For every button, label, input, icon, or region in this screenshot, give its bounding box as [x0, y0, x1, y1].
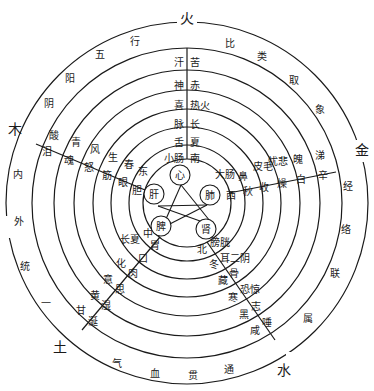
outer-word: 一: [41, 298, 51, 309]
earth-lower: 湿: [101, 300, 111, 311]
wood-lower: 怒: [84, 161, 94, 173]
organ-spleen: 脾: [156, 220, 166, 232]
water-upper: 咸: [250, 325, 260, 336]
metal-upper: 忧悲: [268, 155, 288, 167]
earth-upper: 长夏: [120, 234, 140, 245]
metal-upper: 涕: [315, 149, 325, 161]
metal-upper: 魄: [293, 153, 303, 165]
earth-lower: 思: [115, 284, 125, 295]
outer-word: 象: [315, 104, 325, 115]
five-elements-diagram: 心 肝 肺 脾 肾 火 木 金 土 水 阴 阳 五 行 比 类 取 象 内: [0, 0, 374, 391]
water-upper: 寒: [228, 291, 238, 303]
organ-heart: 心: [175, 170, 185, 181]
wood-lower: 筋: [102, 169, 112, 181]
wood-lower: 眼: [118, 177, 128, 188]
earth-upper: 中: [143, 227, 153, 239]
earth-lower: 口: [138, 253, 148, 264]
outer-word: 行: [130, 35, 140, 47]
water-lower: 耳二阴: [220, 253, 250, 264]
fire-right: 长: [190, 119, 200, 130]
outer-word: 血: [150, 367, 160, 379]
wood-upper: 青: [71, 136, 81, 148]
outer-word: 气: [112, 357, 122, 369]
fire-right: 热火: [190, 99, 210, 111]
wood-upper: 生: [108, 151, 118, 163]
element-fire: 火: [180, 10, 194, 26]
earth-upper: 意: [103, 273, 113, 285]
element-earth: 土: [53, 339, 67, 355]
water-lower: 膀胱: [210, 236, 230, 248]
fire-left: 汗: [174, 56, 184, 68]
wood-upper: 东: [138, 165, 148, 177]
metal-lower: 秋: [243, 185, 253, 197]
wood-upper: 风: [90, 144, 100, 155]
water-lower: 唾: [262, 317, 272, 328]
organ-liver: 肝: [149, 189, 159, 200]
outer-word: 类: [257, 50, 267, 62]
fire-left: 小肠: [164, 153, 184, 164]
wood-upper: 春: [124, 159, 134, 170]
earth-upper: 黄: [90, 289, 100, 301]
element-metal: 金: [355, 142, 369, 158]
fire-left: 舌: [174, 137, 184, 148]
outer-word: 经: [343, 180, 353, 192]
element-water: 水: [277, 362, 291, 378]
element-wood: 木: [8, 121, 22, 137]
wood-lower: 魂: [64, 154, 74, 166]
metal-lower: 辛: [318, 169, 328, 181]
metal-sector: 大肠 鼻 皮毛 忧悲 魄 涕 西 秋 收 燥 白 辛: [215, 149, 328, 201]
earth-lower: 涎: [88, 315, 98, 327]
organ-kidney: 肾: [201, 224, 211, 235]
metal-lower: 白: [296, 173, 306, 185]
water-lower: 恐惊: [240, 283, 260, 295]
earth-sector: 中 长夏 化 意 黄 甘 胃 口 肉 思 湿 涎: [76, 227, 160, 327]
earth-lower: 胃: [150, 240, 160, 251]
organ-lung: 肺: [205, 190, 215, 201]
metal-upper: 鼻: [238, 170, 248, 182]
outer-word: 外: [14, 216, 24, 227]
water-sector: 北 冬 藏 寒 黑 咸 膀胱 耳二阴 骨 恐惊 志 唾: [197, 236, 272, 336]
water-upper: 冬: [209, 258, 219, 270]
fire-right: 苦: [190, 56, 200, 68]
water-lower: 骨: [229, 268, 239, 279]
water-upper: 北: [197, 244, 207, 255]
outer-word: 络: [341, 223, 351, 235]
metal-lower: 收: [259, 181, 269, 193]
earth-upper: 化: [116, 257, 126, 269]
fire-left: 喜: [174, 99, 184, 111]
outer-word: 内: [13, 168, 23, 180]
outer-word: 五: [95, 49, 105, 60]
water-upper: 藏: [218, 275, 228, 286]
fire-right: 赤: [190, 80, 200, 91]
organ-pentagram: 心 肝 肺 脾 肾: [144, 165, 220, 239]
outer-word: 统: [20, 260, 30, 272]
fire-left: 脉: [174, 118, 184, 130]
outer-word: 属: [303, 313, 313, 324]
outer-word: 比: [225, 38, 235, 49]
fire-right: 南: [190, 152, 200, 164]
fire-left: 神: [174, 79, 184, 91]
wood-upper: 酸: [49, 129, 59, 141]
outer-word: 阳: [65, 73, 75, 84]
metal-lower: 燥: [277, 178, 287, 189]
sector-dividers: [36, 48, 336, 340]
metal-upper: 大肠: [215, 168, 235, 180]
metal-lower: 西: [226, 190, 236, 201]
wood-lower: 胆: [132, 185, 142, 196]
fire-right: 夏: [190, 137, 200, 148]
diagram-canvas: 心 肝 肺 脾 肾 火 木 金 土 水 阴 阳 五 行 比 类 取 象 内: [0, 0, 374, 391]
label-masks: [4, 8, 372, 374]
outer-word: 取: [289, 75, 299, 86]
earth-upper: 甘: [76, 304, 86, 316]
water-lower: 志: [251, 300, 261, 312]
earth-lower: 肉: [128, 267, 138, 279]
wood-lower: 泪: [42, 145, 52, 157]
water-upper: 黑: [239, 309, 249, 320]
outer-word: 阴: [44, 98, 54, 109]
outer-word: 联: [330, 268, 340, 279]
outer-word: 贯: [188, 370, 198, 381]
outer-word: 通: [224, 364, 234, 375]
